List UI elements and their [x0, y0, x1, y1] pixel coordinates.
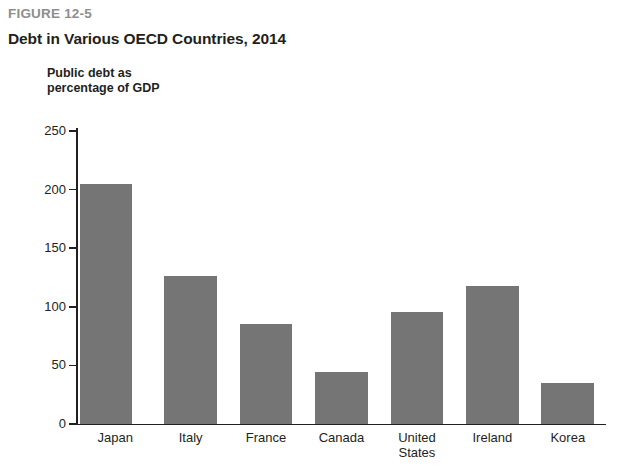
y-tick-mark: [69, 247, 77, 249]
bar-korea: [541, 383, 594, 424]
x-label-canada: Canada: [304, 430, 379, 445]
bar-ireland: [466, 286, 519, 424]
bar-slot: [315, 131, 368, 424]
y-tick-label-text: 200: [26, 183, 66, 196]
chart-plot-area: 050100150200250 JapanItalyFranceCanadaUn…: [0, 0, 618, 474]
bar-slot: [466, 131, 519, 424]
bar-slot: [164, 131, 217, 424]
bar-united-states: [391, 312, 444, 425]
bar-series: [78, 131, 606, 424]
y-tick-label-text: 0: [26, 417, 66, 430]
bar-slot: [391, 131, 444, 424]
y-tick-label: 100: [22, 300, 66, 313]
bar-slot: [80, 131, 133, 424]
bar-canada: [315, 372, 368, 424]
bar-slot: [541, 131, 594, 424]
y-tick-label: 200: [22, 183, 66, 196]
y-tick-mark: [69, 189, 77, 191]
x-label-ireland: Ireland: [455, 430, 530, 445]
y-tick-label-text: 150: [26, 241, 66, 254]
y-tick-label: 150: [22, 241, 66, 254]
y-tick-mark: [69, 130, 77, 132]
figure-container: FIGURE 12-5 Debt in Various OECD Countri…: [0, 0, 618, 474]
y-tick-mark: [69, 306, 77, 308]
bar-slot: [240, 131, 293, 424]
y-tick-label: 250: [22, 124, 66, 137]
y-tick-label: 0: [22, 417, 66, 430]
y-tick-mark: [69, 423, 77, 425]
x-label-korea: Korea: [530, 430, 605, 445]
x-label-japan: Japan: [78, 430, 153, 445]
y-tick-label-text: 100: [26, 300, 66, 313]
y-tick-label-text: 50: [26, 358, 66, 371]
x-label-italy: Italy: [153, 430, 228, 445]
bar-japan: [80, 184, 133, 424]
bar-italy: [164, 276, 217, 424]
y-tick-label: 50: [22, 358, 66, 371]
y-tick-mark: [69, 365, 77, 367]
y-tick-label-text: 250: [26, 124, 66, 137]
x-label-united-states: United States: [379, 430, 454, 460]
x-label-france: France: [228, 430, 303, 445]
bar-france: [240, 324, 293, 424]
